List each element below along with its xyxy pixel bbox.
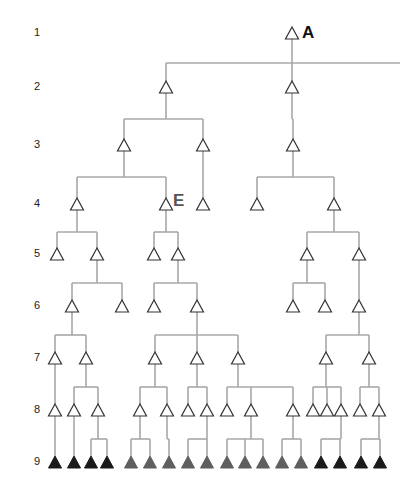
triangle-node-icon [197,139,210,151]
pedigree-tree-diagram [0,0,400,492]
triangle-node-icon [134,404,147,416]
node-tag-a: A [302,24,314,41]
triangle-node-icon [201,404,214,416]
generation-label: 2 [30,80,44,92]
triangle-node-icon [374,456,387,468]
triangle-node-icon [163,456,176,468]
triangle-node-icon [373,404,386,416]
triangle-node-icon [257,456,270,468]
generation-label: 6 [30,299,44,311]
triangle-node-icon [315,456,328,468]
triangle-node-icon [287,300,300,312]
triangle-node-icon [66,300,79,312]
triangle-node-icon [354,404,367,416]
triangle-node-icon [191,352,204,364]
triangle-node-icon [221,456,234,468]
triangle-node-icon [49,456,62,468]
triangle-node-icon [51,248,64,260]
triangle-node-icon [144,456,157,468]
triangle-node-icon [251,198,264,210]
node-tag-e: E [173,192,184,209]
triangle-node-icon [363,352,376,364]
tree-nodes [49,27,387,468]
triangle-node-icon [334,456,347,468]
triangle-node-icon [239,456,252,468]
triangle-node-icon [125,456,138,468]
triangle-node-icon [321,404,334,416]
triangle-node-icon [287,404,300,416]
triangle-node-icon [276,456,289,468]
triangle-node-icon [149,352,162,364]
triangle-node-icon [68,404,81,416]
triangle-node-icon [201,456,214,468]
triangle-node-icon [295,456,308,468]
triangle-node-icon [182,456,195,468]
triangle-node-icon [353,300,366,312]
triangle-node-icon [301,248,314,260]
triangle-node-icon [85,456,98,468]
triangle-node-icon [161,404,174,416]
triangle-node-icon [160,198,173,210]
triangle-node-icon [160,81,173,93]
generation-label: 1 [30,26,44,38]
generation-label: 7 [30,351,44,363]
triangle-node-icon [221,404,234,416]
generation-label: 9 [30,455,44,467]
triangle-node-icon [191,300,204,312]
triangle-node-icon [91,248,104,260]
triangle-node-icon [353,248,366,260]
generation-label: 8 [30,403,44,415]
triangle-node-icon [116,300,129,312]
triangle-node-icon [49,404,62,416]
triangle-node-icon [286,81,299,93]
generation-label: 4 [30,197,44,209]
triangle-node-icon [80,352,93,364]
triangle-node-icon [319,300,332,312]
triangle-node-icon [245,404,258,416]
triangle-node-icon [335,404,348,416]
generation-label: 5 [30,247,44,259]
generation-label: 3 [30,138,44,150]
triangle-node-icon [307,404,320,416]
triangle-node-icon [101,456,114,468]
triangle-node-icon [92,404,105,416]
triangle-node-icon [71,198,84,210]
triangle-node-icon [355,456,368,468]
triangle-node-icon [148,248,161,260]
triangle-node-icon [148,300,161,312]
triangle-node-icon [68,456,81,468]
triangle-node-icon [197,198,210,210]
triangle-node-icon [232,352,245,364]
triangle-node-icon [182,404,195,416]
triangle-node-icon [172,248,185,260]
tree-edges [55,37,400,456]
triangle-node-icon [286,27,299,39]
triangle-node-icon [328,198,341,210]
triangle-node-icon [287,139,300,151]
triangle-node-icon [320,352,333,364]
triangle-node-icon [49,352,62,364]
triangle-node-icon [118,139,131,151]
